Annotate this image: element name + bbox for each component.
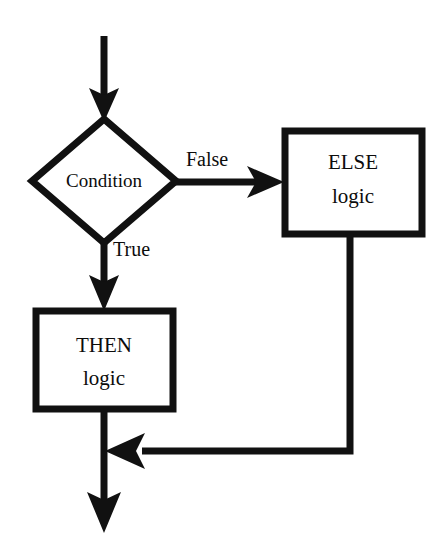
node-condition[interactable]: Condition [32,119,176,243]
edge-entry-arrow [89,36,119,122]
edge-label-true: True [113,238,150,260]
condition-label: Condition [66,170,143,191]
then-logic-box-shape [36,311,173,409]
flowchart-svg: Condition False ELSE logic True THEN log… [0,0,443,553]
else-logic-box-shape [285,131,422,234]
then-logic-label-line1: THEN [76,333,132,357]
else-logic-label-line2: logic [332,184,374,208]
then-logic-label-line2: logic [83,366,125,390]
node-else-logic[interactable]: ELSE logic [285,131,422,234]
edge-exit-arrow [87,409,121,533]
flowchart-canvas: Condition False ELSE logic True THEN log… [0,0,443,553]
else-logic-label-line1: ELSE [328,150,378,174]
node-then-logic[interactable]: THEN logic [36,311,173,409]
edge-label-false: False [186,148,228,170]
edge-false-branch [173,166,284,198]
